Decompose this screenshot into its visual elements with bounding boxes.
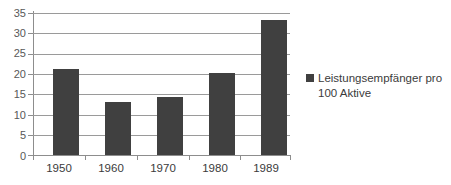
gridline: [33, 54, 290, 55]
y-axis-tick-label: 5: [2, 130, 26, 141]
y-axis-tick-label: 30: [2, 28, 26, 39]
x-axis-tick-mark: [85, 155, 86, 160]
gridline: [33, 13, 290, 14]
bar-1980[interactable]: [209, 73, 235, 155]
y-axis-tick-label: 15: [2, 89, 26, 100]
x-axis-tick-mark: [33, 155, 34, 160]
legend-entry-label: Leistungsempfänger pro 100 Aktive: [318, 71, 446, 101]
x-axis-tick-mark: [290, 155, 291, 160]
bar-1960[interactable]: [105, 102, 131, 155]
x-axis-tick-label: 1989: [240, 163, 292, 175]
bar-1970[interactable]: [157, 97, 183, 155]
y-axis-tick-label: 25: [2, 48, 26, 59]
x-axis-tick-mark: [137, 155, 138, 160]
x-axis-tick-label: 1970: [137, 163, 189, 175]
y-axis-tick-label: 35: [2, 8, 26, 19]
x-axis-tick-mark: [240, 155, 241, 160]
y-axis-tick-label: 20: [2, 69, 26, 80]
y-axis-tick-label: 10: [2, 110, 26, 121]
x-axis-tick-label: 1980: [189, 163, 241, 175]
x-axis-tick-mark: [189, 155, 190, 160]
y-axis-tick-label: 0: [2, 151, 26, 162]
square-marker-icon: [306, 74, 314, 82]
x-axis-line: [33, 155, 291, 156]
plot-area: [33, 13, 290, 155]
bar-1950[interactable]: [53, 69, 79, 155]
x-axis-tick-label: 1950: [33, 163, 85, 175]
y-axis-labels: 35 30 25 20 15 10 5 0: [0, 0, 26, 185]
legend-label-line2: 100 Aktive: [318, 87, 371, 99]
x-axis-tick-label: 1960: [85, 163, 137, 175]
legend-label-line1: Leistungsempfänger pro: [318, 72, 442, 84]
gridline: [33, 33, 290, 34]
bar-1989[interactable]: [261, 20, 287, 155]
bar-chart: 35 30 25 20 15 10 5 0 1950: [0, 0, 451, 185]
chart-legend: Leistungsempfänger pro 100 Aktive: [306, 71, 448, 101]
